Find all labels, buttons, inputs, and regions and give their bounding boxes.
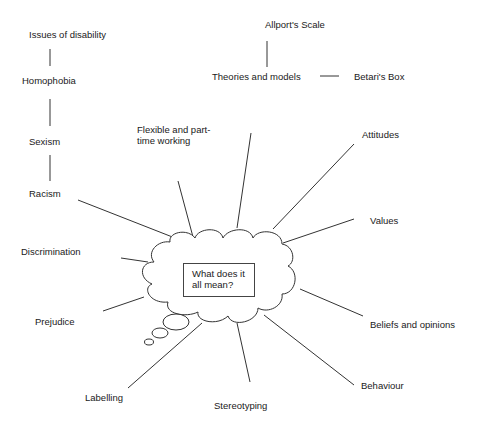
node-stereotyping: Stereotyping xyxy=(214,400,267,411)
node-values: Values xyxy=(370,215,398,226)
node-prejudice: Prejudice xyxy=(35,316,75,327)
spoke-discrimination xyxy=(121,258,148,262)
spoke-stereotyping xyxy=(237,323,250,382)
spoke-behaviour xyxy=(264,315,354,385)
spoke-flexible xyxy=(178,181,193,237)
node-sexism: Sexism xyxy=(29,136,60,147)
node-allports-scale: Allport's Scale xyxy=(265,19,325,30)
node-beliefs-and-opinions: Beliefs and opinions xyxy=(370,319,455,330)
node-homophobia: Homophobia xyxy=(22,75,76,86)
node-racism: Racism xyxy=(29,188,61,199)
node-flexible-working-line1: Flexible and part- xyxy=(137,124,210,135)
node-betaris-box: Betari's Box xyxy=(354,71,404,82)
mind-map-canvas: Issues of disability Homophobia Sexism R… xyxy=(0,0,477,428)
node-issues-of-disability: Issues of disability xyxy=(29,29,106,40)
node-attitudes: Attitudes xyxy=(362,129,399,140)
node-theories-and-models: Theories and models xyxy=(212,71,301,82)
spoke-prejudice xyxy=(103,297,144,311)
spoke-racism xyxy=(78,200,175,238)
central-question-line1: What does it xyxy=(192,268,254,279)
central-question-box: What does it all mean? xyxy=(183,263,255,297)
spoke-attitudes xyxy=(273,144,354,229)
node-labelling: Labelling xyxy=(85,392,123,403)
node-flexible-working-line2: time working xyxy=(137,135,190,146)
node-behaviour: Behaviour xyxy=(361,380,404,391)
node-discrimination: Discrimination xyxy=(21,246,81,257)
central-question-line2: all mean? xyxy=(192,279,254,290)
spoke-theories xyxy=(237,133,251,228)
spoke-values xyxy=(283,219,354,243)
spoke-beliefs xyxy=(300,289,363,316)
connector-lines xyxy=(0,0,477,428)
